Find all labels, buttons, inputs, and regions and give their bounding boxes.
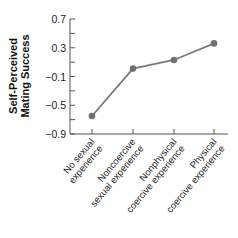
y-tick-label: −0.5 <box>45 99 66 111</box>
y-tick-label: 0.7 <box>51 13 66 25</box>
x-axis-category-labels: No sexualexperienceNoncoercivesexual exp… <box>58 136 226 215</box>
series-line <box>92 43 214 116</box>
y-tick-label: −0.9 <box>45 128 66 140</box>
data-point-marker <box>211 40 218 47</box>
y-axis: 0.70.3−0.1−0.5−0.9 <box>45 13 75 140</box>
data-point-marker <box>89 113 96 120</box>
line-chart: Self-Perceived Mating Success 0.70.3−0.1… <box>0 0 238 238</box>
data-point-marker <box>130 65 137 72</box>
y-axis-label-line-1: Self-Perceived <box>7 38 19 114</box>
y-axis-label-line-2: Mating Success <box>19 34 31 117</box>
data-series <box>89 40 218 119</box>
x-axis <box>70 129 228 134</box>
y-tick-label: 0.3 <box>51 42 66 54</box>
data-point-marker <box>171 57 178 64</box>
y-tick-label: −0.1 <box>45 71 66 83</box>
y-axis-label: Self-Perceived Mating Success <box>7 34 31 117</box>
